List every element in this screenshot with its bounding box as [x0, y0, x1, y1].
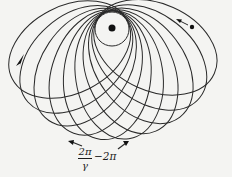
- orbit-body-dot: [190, 25, 194, 29]
- arrowhead-upper-right-icon: [176, 19, 182, 23]
- precession-arrowhead-left-icon: [68, 140, 74, 145]
- fraction-numerator: 2π: [78, 146, 92, 159]
- precession-fraction: 2π γ: [78, 146, 92, 171]
- nucleus-dot: [109, 25, 116, 32]
- precessing-ellipses: [0, 0, 232, 148]
- orbit-ellipse: [79, 0, 232, 113]
- orbit-diagram: 2π γ −2π: [0, 0, 232, 177]
- fraction-denominator: γ: [78, 159, 92, 171]
- minus-two-pi-label: −2π: [94, 151, 116, 162]
